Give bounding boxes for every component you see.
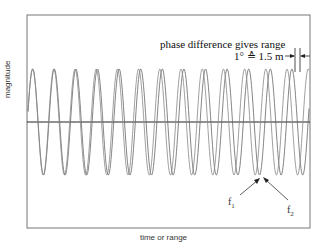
label-f1: f1 [228, 196, 235, 210]
annotation-value: 1° ≙ 1.5 m [234, 50, 283, 63]
f2-arrow [263, 177, 288, 200]
y-axis-label: magnitude [3, 61, 12, 98]
x-axis-label: time or range [0, 233, 327, 242]
phase-difference-diagram: phase difference gives range 1° ≙ 1.5 m … [0, 0, 327, 248]
annotation-title: phase difference gives range [160, 38, 285, 50]
phase-gap-marker [285, 48, 310, 72]
label-f2: f2 [287, 204, 294, 218]
f1-arrow [240, 178, 260, 195]
